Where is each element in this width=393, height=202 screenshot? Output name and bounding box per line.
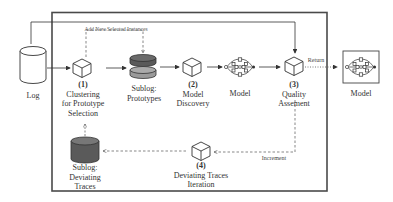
add-new-instances-label: Add New Selected Instances — [76, 25, 156, 35]
deviating-iteration-cube-icon — [192, 142, 210, 161]
log-to-quality-edge — [31, 22, 295, 53]
step4-label: (4) Deviating Traces Iteration — [168, 161, 234, 190]
output-model-label: Model — [343, 89, 379, 99]
log-database-icon — [20, 47, 46, 84]
increment-label: Increment — [254, 155, 294, 162]
return-label: Return — [301, 57, 331, 64]
sublog-deviating-label: Sublog: Deviating Traces — [64, 163, 106, 192]
log-label: Log — [18, 91, 48, 101]
step3-label: (3) Quality Assement — [272, 80, 316, 109]
step2-label: (2) Model Discovery — [172, 80, 214, 109]
model-discovery-cube-icon — [183, 58, 201, 77]
sublog-deviating-icon — [71, 137, 99, 163]
model-petri-net-icon — [224, 58, 255, 76]
clustering-cube-icon — [73, 59, 91, 78]
model-label: Model — [222, 89, 258, 99]
sublog-prototypes-icon — [130, 55, 156, 79]
sublog-prototypes-label: Sublog: Prototypes — [122, 84, 166, 103]
step1-label: (1) Clustering for Prototype Selection — [57, 80, 109, 118]
